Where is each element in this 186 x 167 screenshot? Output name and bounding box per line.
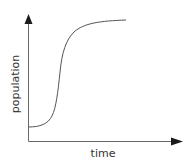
x-axis <box>29 138 184 146</box>
population-curve <box>29 20 127 127</box>
x-axis-arrow-icon <box>171 138 183 146</box>
y-axis-arrow-icon <box>25 14 33 24</box>
x-axis-label: time <box>91 147 116 160</box>
logistic-growth-chart: time population <box>0 0 186 167</box>
y-axis-label: population <box>9 55 22 114</box>
y-axis <box>25 14 33 142</box>
